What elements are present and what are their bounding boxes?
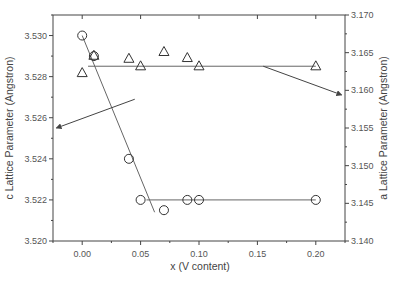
y-tick-label: 3.522	[24, 195, 47, 205]
y-tick-label: 3.526	[24, 113, 47, 123]
y-tick-label: 3.530	[24, 31, 47, 41]
circle-marker	[159, 206, 168, 215]
triangle-marker	[182, 53, 192, 62]
plot-border	[53, 15, 345, 241]
triangle-marker	[77, 68, 87, 77]
fit-lines	[82, 36, 316, 213]
triangle-marker	[136, 61, 146, 70]
x-tick-label: 0.10	[190, 249, 208, 259]
fit-line	[82, 36, 154, 213]
y-tick-label: 3.524	[24, 154, 47, 164]
y-tick-label: 3.520	[24, 236, 47, 246]
y-right-tick-label: 3.160	[351, 85, 374, 95]
x-tick-label: 0.00	[73, 249, 91, 259]
y-tick-label: 3.528	[24, 72, 47, 82]
y-right-tick-label: 3.145	[351, 198, 374, 208]
triangle-marker	[194, 61, 204, 70]
x-axis-ticks: 0.000.050.100.150.20	[53, 15, 345, 259]
right-y-axis-ticks: 3.1403.1453.1503.1553.1603.1653.170	[345, 10, 374, 246]
y-right-tick-label: 3.165	[351, 48, 374, 58]
annotation-arrow	[57, 99, 135, 128]
data-markers	[77, 31, 321, 215]
x-tick-label: 0.05	[132, 249, 150, 259]
lattice-parameter-chart: 0.000.050.100.150.20 3.5203.5223.5243.52…	[0, 0, 398, 286]
plot-frame	[53, 15, 345, 241]
left-y-axis-title: c Lattice Parameter (Angstron)	[3, 57, 15, 200]
circle-marker	[124, 154, 133, 163]
annotation-arrows	[57, 66, 342, 128]
triangle-marker	[124, 53, 134, 62]
triangle-marker	[159, 47, 169, 56]
y-right-tick-label: 3.140	[351, 236, 374, 246]
right-y-axis-title: a Lattice Parameter (Angstron)	[377, 56, 389, 200]
circle-marker	[136, 195, 145, 204]
y-right-tick-label: 3.150	[351, 161, 374, 171]
x-axis-title: x (V content)	[170, 260, 230, 272]
y-right-tick-label: 3.170	[351, 10, 374, 20]
x-tick-label: 0.15	[249, 249, 267, 259]
triangle-marker	[311, 61, 321, 70]
y-right-tick-label: 3.155	[351, 123, 374, 133]
left-y-axis-ticks: 3.5203.5223.5243.5263.5283.530	[24, 15, 53, 246]
x-tick-label: 0.20	[307, 249, 325, 259]
annotation-arrow	[263, 66, 341, 95]
